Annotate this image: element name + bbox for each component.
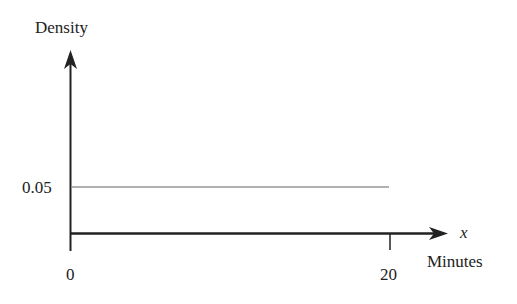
y-tick-label-0.05: 0.05 (22, 179, 52, 196)
x-variable-label: x (460, 224, 468, 241)
x-axis-unit-label: Minutes (427, 253, 483, 270)
x-tick-label-20: 20 (380, 266, 397, 283)
x-tick-label-0: 0 (66, 266, 75, 283)
y-axis-label: Density (35, 19, 88, 36)
